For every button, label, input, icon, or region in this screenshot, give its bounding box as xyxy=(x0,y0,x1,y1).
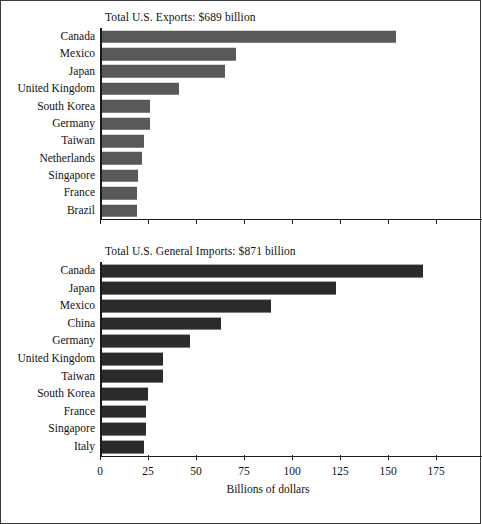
bar-track xyxy=(100,202,482,219)
x-tick-labels-exports xyxy=(100,229,482,244)
bar xyxy=(102,423,146,436)
bar-track xyxy=(100,167,482,184)
x-axis-tick-label: 50 xyxy=(190,466,202,478)
bar-row: Japan xyxy=(1,280,482,298)
bar-track xyxy=(100,403,482,421)
bar-track xyxy=(100,297,482,315)
bar-track xyxy=(100,385,482,403)
x-axis-tick xyxy=(340,455,341,460)
bar-track xyxy=(100,368,482,386)
chart-imports: Total U.S. General Imports: $871 billion… xyxy=(1,245,482,517)
bar xyxy=(102,135,144,148)
bar-track xyxy=(100,115,482,132)
x-axis-tick xyxy=(244,219,245,224)
bar xyxy=(102,335,190,348)
bar-row: Mexico xyxy=(1,45,482,62)
bar-row: Germany xyxy=(1,115,482,132)
category-label: Canada xyxy=(1,265,100,277)
bar-track xyxy=(100,315,482,333)
bar xyxy=(102,440,144,453)
x-axis-tick xyxy=(292,455,293,460)
x-axis-tick xyxy=(244,455,245,460)
bar-track xyxy=(100,332,482,350)
x-axis-tick xyxy=(148,219,149,224)
category-label: Singapore xyxy=(1,423,100,435)
bar-row: China xyxy=(1,315,482,333)
category-label: Mexico xyxy=(1,300,100,312)
category-label: Japan xyxy=(1,283,100,295)
bar-row: South Korea xyxy=(1,98,482,115)
bar xyxy=(102,300,271,313)
x-axis-tick xyxy=(436,455,437,460)
category-label: Mexico xyxy=(1,48,100,60)
bar-row: Taiwan xyxy=(1,368,482,386)
bar-rows-exports: CanadaMexicoJapanUnited KingdomSouth Kor… xyxy=(1,28,482,219)
x-axis-tick-label: 0 xyxy=(97,466,103,478)
bar-track xyxy=(100,350,482,368)
category-label: Germany xyxy=(1,118,100,130)
bar xyxy=(102,264,423,277)
category-label: Germany xyxy=(1,335,100,347)
x-axis-tick xyxy=(292,219,293,224)
category-label: Canada xyxy=(1,31,100,43)
bar xyxy=(102,370,163,383)
x-axis-tick xyxy=(148,455,149,460)
bar xyxy=(102,100,150,113)
x-tick-labels-imports: 0255075100125150175 xyxy=(100,466,482,481)
chart-title-exports: Total U.S. Exports: $689 billion xyxy=(105,11,256,23)
x-axis-tick xyxy=(100,455,101,460)
category-label: Japan xyxy=(1,66,100,78)
bar xyxy=(102,30,396,43)
bar-row: Singapore xyxy=(1,420,482,438)
bar xyxy=(102,117,150,130)
x-axis-tick xyxy=(196,455,197,460)
plot-area-imports: CanadaJapanMexicoChinaGermanyUnited King… xyxy=(1,262,482,495)
category-label: United Kingdom xyxy=(1,83,100,95)
x-axis-tick xyxy=(388,455,389,460)
bar xyxy=(102,48,236,61)
bar-row: Canada xyxy=(1,262,482,280)
x-axis-tick-label: 175 xyxy=(427,466,444,478)
bar-track xyxy=(100,185,482,202)
bar-row: Canada xyxy=(1,28,482,45)
bar xyxy=(102,170,138,183)
x-axis-exports xyxy=(100,219,482,229)
x-axis-tick xyxy=(340,219,341,224)
bar-row: France xyxy=(1,185,482,202)
bar-track xyxy=(100,438,482,456)
category-label: China xyxy=(1,318,100,330)
x-axis-tick-label: 25 xyxy=(142,466,154,478)
bar-track xyxy=(100,420,482,438)
bar xyxy=(102,405,146,418)
bar-row: Brazil xyxy=(1,202,482,219)
bar xyxy=(102,317,221,330)
bar xyxy=(102,282,336,295)
bar-row: Japan xyxy=(1,63,482,80)
bar-track xyxy=(100,150,482,167)
bar-row: Germany xyxy=(1,332,482,350)
bar-track xyxy=(100,280,482,298)
category-label: South Korea xyxy=(1,388,100,400)
bar-row: Netherlands xyxy=(1,150,482,167)
category-label: Singapore xyxy=(1,170,100,182)
bar xyxy=(102,204,137,217)
bar-track xyxy=(100,45,482,62)
bar-rows-imports: CanadaJapanMexicoChinaGermanyUnited King… xyxy=(1,262,482,456)
category-label: United Kingdom xyxy=(1,353,100,365)
x-axis-title-imports: Billions of dollars xyxy=(100,483,436,495)
bar xyxy=(102,352,163,365)
x-axis-tick-label: 75 xyxy=(238,466,250,478)
bar-row: United Kingdom xyxy=(1,350,482,368)
bar-row: South Korea xyxy=(1,385,482,403)
category-label: France xyxy=(1,187,100,199)
category-label: Taiwan xyxy=(1,371,100,383)
x-axis-tick xyxy=(100,219,101,224)
x-axis-tick-label: 100 xyxy=(283,466,300,478)
bar xyxy=(102,83,179,96)
bar-track xyxy=(100,98,482,115)
bar xyxy=(102,65,225,78)
x-axis-tick xyxy=(436,219,437,224)
bar-track xyxy=(100,28,482,45)
x-axis-tick-label: 150 xyxy=(379,466,396,478)
